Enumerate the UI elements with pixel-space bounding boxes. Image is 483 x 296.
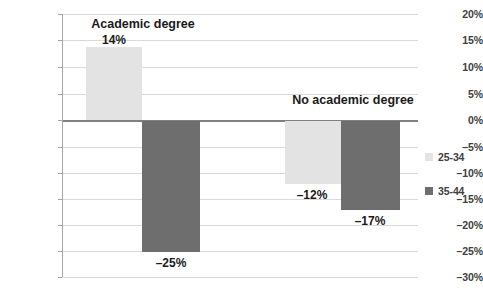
gridline-20 bbox=[62, 14, 418, 15]
data-label-no-academic-35-44: –17% bbox=[340, 214, 400, 228]
legend-item-35-44[interactable]: 35-44 bbox=[425, 174, 483, 208]
bar-chart: 20% 15% 10% 5% 0% –5% –10% –15% –20% –25… bbox=[0, 0, 483, 296]
legend-label-35-44: 35-44 bbox=[438, 185, 464, 197]
bar-academic-35-44[interactable] bbox=[142, 121, 200, 252]
tick-mark-minus20 bbox=[58, 225, 62, 226]
tick-mark-minus30 bbox=[58, 277, 62, 278]
tick-mark-10 bbox=[58, 67, 62, 68]
legend-swatch-icon-25-34 bbox=[425, 153, 433, 161]
tick-mark-15 bbox=[58, 40, 62, 41]
legend: 25-34 35-44 bbox=[425, 140, 483, 208]
group-title-no-academic-degree: No academic degree bbox=[273, 93, 433, 107]
tick-mark-20 bbox=[58, 14, 62, 15]
y-tick-label-minus30: –30% bbox=[427, 272, 483, 282]
bar-no-academic-25-34[interactable] bbox=[285, 121, 341, 184]
tick-mark-minus25 bbox=[58, 251, 62, 252]
tick-mark-minus15 bbox=[58, 199, 62, 200]
legend-label-25-34: 25-34 bbox=[438, 151, 464, 163]
tick-mark-minus5 bbox=[58, 147, 62, 148]
y-tick-label-5: 5% bbox=[427, 89, 483, 99]
y-tick-label-15: 15% bbox=[427, 35, 483, 45]
legend-swatch-icon-35-44 bbox=[425, 187, 433, 195]
tick-mark-5 bbox=[58, 94, 62, 95]
gridline-minus25 bbox=[62, 251, 418, 252]
data-label-academic-35-44: –25% bbox=[141, 256, 201, 270]
tick-mark-0 bbox=[58, 120, 62, 121]
legend-item-25-34[interactable]: 25-34 bbox=[425, 140, 483, 174]
data-label-academic-25-34: 14% bbox=[86, 33, 142, 47]
bar-academic-25-34[interactable] bbox=[86, 47, 142, 120]
y-tick-label-0: 0% bbox=[427, 115, 483, 125]
data-label-no-academic-25-34: –12% bbox=[283, 188, 341, 202]
y-axis-line bbox=[62, 14, 63, 277]
bar-no-academic-35-44[interactable] bbox=[341, 121, 400, 210]
gridline-minus30 bbox=[62, 277, 418, 278]
y-tick-label-10: 10% bbox=[427, 62, 483, 72]
group-title-academic-degree: Academic degree bbox=[78, 17, 208, 31]
tick-mark-minus10 bbox=[58, 173, 62, 174]
y-tick-label-minus25: –25% bbox=[427, 246, 483, 256]
y-tick-label-20: 20% bbox=[427, 9, 483, 19]
y-tick-label-minus20: –20% bbox=[427, 220, 483, 230]
